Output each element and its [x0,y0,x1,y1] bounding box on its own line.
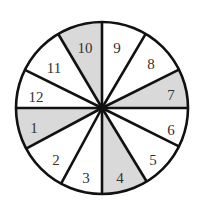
spinner-wheel: 987654321121110 [0,0,203,204]
sector-label-5: 5 [149,152,157,168]
sector-label-10: 10 [78,40,93,56]
sector-label-8: 8 [147,56,155,72]
sector-label-4: 4 [116,170,124,186]
sector-label-6: 6 [167,122,175,138]
spinner-hub [99,105,106,112]
sector-label-12: 12 [29,89,44,105]
sector-label-2: 2 [52,152,60,168]
sector-label-7: 7 [167,87,175,103]
sector-label-3: 3 [82,170,90,186]
sector-label-1: 1 [30,120,38,136]
sector-label-9: 9 [113,40,121,56]
sector-label-11: 11 [47,60,61,76]
